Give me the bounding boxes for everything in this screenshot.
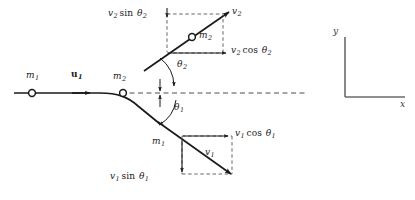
angle-arc-theta2: [160, 58, 174, 86]
label-v2-vector: v2: [232, 7, 242, 17]
label-v2-sin-theta2: v2sin θ2: [108, 9, 147, 19]
label-v2-cos-theta2: v2cos θ2: [231, 46, 272, 56]
collision-diagram-figure: m1 u1 m2 m2 m1 v2 v1 θ2 θ1 v2sin θ2 v2co…: [0, 0, 415, 200]
label-theta1: θ1: [174, 103, 184, 113]
label-m1-incoming: m1: [26, 71, 39, 81]
particle-m2-outgoing: [189, 34, 196, 41]
axis-label-y: y: [333, 26, 338, 36]
particle-m2-target: [120, 90, 127, 97]
outgoing-trajectory-m1: [158, 122, 231, 174]
label-m2-outgoing: m2: [199, 31, 212, 41]
incoming-trajectory-m1: [14, 93, 160, 124]
label-u1-incoming: u1: [71, 70, 83, 80]
label-v1-cos-theta1: v1cos θ1: [235, 129, 276, 139]
component-box-v2: [167, 15, 223, 53]
coordinate-axes: [345, 37, 405, 97]
label-m1-outgoing: m1: [152, 137, 165, 147]
label-v1-sin-theta1: v1sin θ1: [110, 172, 149, 182]
label-v1-vector: v1: [205, 148, 215, 158]
particle-m1-incoming: [29, 90, 36, 97]
label-m2-target: m2: [113, 72, 126, 82]
v2-sin-component-arrow: [167, 8, 223, 52]
label-theta2: θ2: [177, 60, 187, 70]
axis-label-x: x: [400, 99, 405, 109]
